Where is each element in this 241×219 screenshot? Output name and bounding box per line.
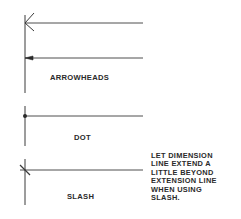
open-arrowhead-icon <box>25 13 34 31</box>
slash-note: LET DIMENSION LINE EXTEND A LITTLE BEYON… <box>151 152 217 202</box>
arrowheads-label: ARROWHEADS <box>50 73 109 82</box>
dot-label: DOT <box>74 133 91 142</box>
filled-arrowhead-icon <box>25 56 33 60</box>
slash-label: SLASH <box>67 192 94 201</box>
dot-terminator-icon <box>23 114 27 118</box>
note-line: SLASH. <box>151 194 217 202</box>
